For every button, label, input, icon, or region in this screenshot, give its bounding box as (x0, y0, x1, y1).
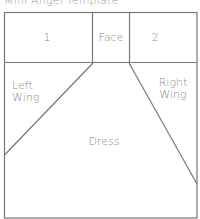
dress-label: Dress (84, 136, 124, 148)
right-wing-label: Right Wing (155, 77, 191, 101)
left-wing-diagonal (5, 63, 94, 155)
face-label: Face (96, 32, 126, 44)
section-1-label: 1 (40, 32, 54, 44)
section-2-label: 2 (148, 32, 162, 44)
left-wing-label: Left Wing (12, 80, 42, 104)
